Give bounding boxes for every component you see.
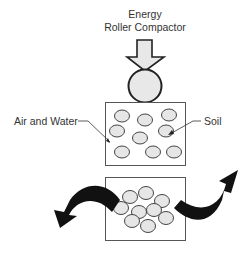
- soil-particle: [125, 215, 140, 228]
- soil-particle: [133, 132, 148, 144]
- down-arrow-icon: [127, 40, 164, 71]
- soil-particle: [123, 191, 138, 204]
- soil-particle: [162, 109, 177, 121]
- roller-icon: [129, 70, 162, 103]
- soil-particle: [141, 220, 156, 233]
- soil-particle: [146, 146, 161, 158]
- soil-label: Soil: [204, 116, 222, 127]
- soil-particle: [115, 110, 130, 122]
- soil-particle: [167, 146, 182, 158]
- soil-particle: [159, 212, 174, 225]
- soil-particle: [139, 187, 154, 200]
- air-and-water-label: Air and Water: [14, 116, 78, 127]
- soil-particle: [115, 146, 130, 158]
- compacted-soil-box: [106, 178, 186, 241]
- soil-particle: [110, 125, 125, 137]
- soil-particle: [138, 114, 153, 126]
